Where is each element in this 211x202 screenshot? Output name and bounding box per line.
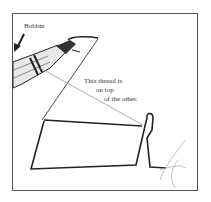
- thread-note-line2: on top: [96, 86, 114, 94]
- wire-frame: [31, 114, 166, 170]
- thread-note-line1: This thread is: [84, 77, 122, 85]
- thread-note-line3: of the other.: [104, 95, 138, 103]
- hand-sketch: [160, 140, 186, 188]
- bobbin-label: Bobbin: [24, 22, 45, 30]
- arrow-icon: [14, 34, 24, 52]
